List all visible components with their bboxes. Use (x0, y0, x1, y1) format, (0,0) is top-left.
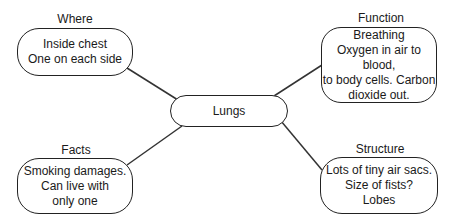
where-heading: Where (57, 12, 92, 26)
where-text: Inside chest One on each side (28, 37, 122, 67)
structure-text: Lots of tiny air sacs. Size of fists? Lo… (326, 163, 432, 208)
function-node: Breathing Oxygen in air to blood, to bod… (321, 27, 437, 103)
structure-node: Lots of tiny air sacs. Size of fists? Lo… (320, 157, 438, 214)
connector-where (127, 68, 178, 100)
facts-node: Smoking damages. Can live with only one (17, 158, 133, 214)
facts-heading: Facts (61, 143, 90, 157)
facts-text: Smoking damages. Can live with only one (24, 164, 127, 209)
connector-structure (281, 121, 322, 170)
central-topic-node: Lungs (170, 95, 288, 127)
where-node: Inside chest One on each side (17, 28, 133, 76)
function-text: Breathing Oxygen in air to blood, to bod… (322, 28, 436, 103)
connector-facts (127, 126, 182, 165)
connector-function (274, 65, 322, 96)
function-heading: Function (358, 11, 404, 25)
central-topic-label: Lungs (213, 104, 246, 119)
structure-heading: Structure (356, 142, 405, 156)
